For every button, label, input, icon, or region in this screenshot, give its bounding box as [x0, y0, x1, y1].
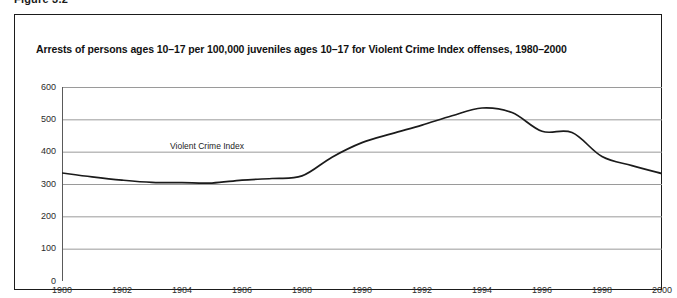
figure-title: Arrests of persons ages 10–17 per 100,00…: [36, 43, 656, 56]
y-tick-label-100: 100: [26, 244, 56, 253]
x-tick-label-1980: 1980: [40, 285, 84, 295]
y-axis-labels: 6005004003002001000: [24, 87, 56, 281]
y-tick-label-300: 300: [26, 180, 56, 189]
x-tick-label-1988: 1988: [280, 285, 324, 295]
x-tick-label-1990: 1990: [340, 285, 384, 295]
x-tick-label-1986: 1986: [220, 285, 264, 295]
figure-frame: Arrests of persons ages 10–17 per 100,00…: [14, 14, 662, 290]
series-annotation-violent-crime-index: Violent Crime Index: [170, 141, 244, 151]
x-tick-label-2000: 2000: [640, 285, 677, 295]
x-tick-label-1996: 1996: [520, 285, 564, 295]
y-tick-label-400: 400: [26, 147, 56, 156]
y-tick-label-500: 500: [26, 115, 56, 124]
x-tick-label-1994: 1994: [460, 285, 504, 295]
running-head: Figure 3.2: [14, 0, 68, 5]
x-axis-labels: 1980198219841986198819901992199419961998…: [62, 285, 662, 298]
series-line-violent-crime-index: [62, 108, 662, 183]
y-tick-label-600: 600: [26, 83, 56, 92]
figure-page: Figure 3.2 Arrests of persons ages 10–17…: [0, 0, 677, 298]
plot-area: Violent Crime Index: [62, 87, 662, 281]
line-chart: [62, 87, 662, 281]
y-tick-label-200: 200: [26, 212, 56, 221]
x-tick-label-1992: 1992: [400, 285, 444, 295]
x-tick-label-1982: 1982: [100, 285, 144, 295]
x-tick-label-1998: 1998: [580, 285, 624, 295]
x-tick-label-1984: 1984: [160, 285, 204, 295]
